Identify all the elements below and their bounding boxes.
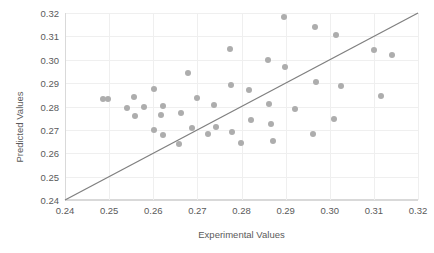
y-axis-tick-label: 0.29 [25,78,59,89]
data-point [160,103,166,109]
data-point [268,121,274,127]
data-point [282,64,288,70]
x-axis-tick-label: 0.32 [398,205,434,216]
data-point [124,105,130,111]
data-point [238,140,244,146]
x-axis-tick-label: 0.25 [89,205,129,216]
y-axis-tick-label: 0.26 [25,148,59,159]
data-point [158,112,164,118]
y-axis-tick-label: 0.25 [25,171,59,182]
x-axis-title: Experimental Values [65,229,418,240]
data-point [151,86,157,92]
data-point [194,95,200,101]
data-point [338,83,344,89]
y-axis-tick-label: 0.31 [25,31,59,42]
y-axis-tick-label: 0.30 [25,54,59,65]
data-point [228,82,234,88]
data-point [227,46,233,52]
parity-reference-line [65,13,418,200]
y-axis-tick-label: 0.27 [25,124,59,135]
data-point [270,138,276,144]
y-axis-tick-label: 0.24 [25,195,59,206]
x-axis-tick-label: 0.24 [45,205,85,216]
data-point [331,116,337,122]
x-axis-tick-label: 0.28 [222,205,262,216]
data-point [178,110,184,116]
plot-area: 0.240.250.260.270.280.290.300.310.32 0.2… [65,13,418,200]
data-point [205,131,211,137]
data-point [131,94,137,100]
x-axis-tick-label: 0.30 [310,205,350,216]
x-axis-tick-label: 0.29 [266,205,306,216]
data-point [389,52,395,58]
data-point [310,131,316,137]
data-point [211,102,217,108]
data-point [176,141,182,147]
y-axis-tick-label: 0.28 [25,101,59,112]
data-point [371,47,377,53]
data-point [265,57,271,63]
data-point [185,70,191,76]
y-axis-tick-label: 0.32 [25,8,59,19]
data-point [246,87,252,93]
gridline-vertical [418,13,419,200]
scatter-chart: Predicted Values Experimental Values 0.2… [0,0,434,253]
data-point [312,24,318,30]
gridline-horizontal [65,200,418,201]
data-point [292,106,298,112]
x-axis-tick-label: 0.26 [133,205,173,216]
data-point [132,113,138,119]
data-point [141,104,147,110]
data-point [313,79,319,85]
data-point [378,93,384,99]
data-point [189,125,195,131]
x-axis-tick-label: 0.31 [354,205,394,216]
data-point [229,129,235,135]
data-point [266,101,272,107]
data-point [248,117,254,123]
data-point [281,14,287,20]
data-point [160,132,166,138]
data-point [151,127,157,133]
data-point [213,124,219,130]
x-axis-tick-label: 0.27 [177,205,217,216]
data-point [105,96,111,102]
data-point [333,32,339,38]
